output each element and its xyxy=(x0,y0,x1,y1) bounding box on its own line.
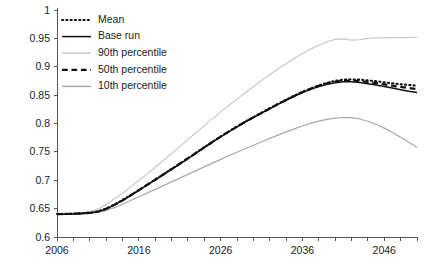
x-tick-label: 2016 xyxy=(127,244,151,256)
x-axis: 20062016202620362046 xyxy=(45,237,417,256)
legend-label-base-run: Base run xyxy=(98,29,140,41)
chart-legend: MeanBase run90th percentile50th percenti… xyxy=(62,13,167,91)
y-tick-label: 0.85 xyxy=(30,89,51,101)
y-tick-label: 0.9 xyxy=(35,60,50,72)
y-tick-label: 0.6 xyxy=(35,231,50,243)
chart-container: 0.60.650.70.750.80.850.90.951 2006201620… xyxy=(0,0,427,264)
y-tick-label: 0.75 xyxy=(30,145,51,157)
series-line-50th-percentile xyxy=(57,81,417,215)
x-tick-label: 2006 xyxy=(45,244,69,256)
y-tick-label: 1 xyxy=(44,4,50,16)
x-tick-label: 2026 xyxy=(209,244,233,256)
y-tick-label: 0.65 xyxy=(30,202,51,214)
legend-label-50th-percentile: 50th percentile xyxy=(98,63,167,75)
y-axis: 0.60.650.70.750.80.850.90.951 xyxy=(30,4,57,243)
legend-label-mean: Mean xyxy=(98,13,124,25)
line-chart: 0.60.650.70.750.80.850.90.951 2006201620… xyxy=(0,0,427,264)
legend-label-10th-percentile: 10th percentile xyxy=(98,79,167,91)
legend-label-90th-percentile: 90th percentile xyxy=(98,46,167,58)
series-line-10th-percentile xyxy=(57,117,417,214)
series-line-base-run xyxy=(57,82,417,214)
y-tick-label: 0.8 xyxy=(35,117,50,129)
x-tick-label: 2046 xyxy=(373,244,397,256)
y-tick-label: 0.95 xyxy=(30,32,51,44)
x-tick-label: 2036 xyxy=(291,244,315,256)
y-tick-label: 0.7 xyxy=(35,174,50,186)
